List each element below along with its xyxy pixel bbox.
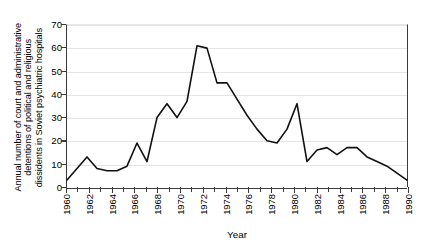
- x-tick-label-wrap-1976: 1976: [243, 194, 254, 219]
- x-axis-tick-marks: [66, 187, 408, 194]
- x-tick-label-1974: 1974: [220, 194, 231, 215]
- x-tick-label-wrap-1978: 1978: [266, 194, 277, 219]
- y-axis-title-line-2: detentions of political and religious: [24, 39, 33, 176]
- x-tick-label-wrap-1968: 1968: [152, 194, 163, 219]
- y-tick-mark-70: [61, 24, 66, 25]
- x-tick-label-wrap-1960: 1960: [61, 194, 72, 219]
- x-tick-mark-1974: [226, 187, 227, 193]
- x-tick-label-wrap-1984: 1984: [334, 194, 345, 219]
- x-tick-label-1986: 1986: [357, 194, 368, 215]
- x-tick-label-1988: 1988: [380, 194, 391, 215]
- x-tick-mark-1984: [340, 187, 341, 193]
- x-tick-label-wrap-1974: 1974: [220, 194, 231, 219]
- x-tick-mark-1963: [100, 187, 101, 192]
- y-tick-mark-60: [61, 47, 66, 48]
- x-tick-mark-1975: [237, 187, 238, 192]
- x-tick-mark-1979: [283, 187, 284, 192]
- x-tick-mark-1989: [397, 187, 398, 192]
- x-tick-mark-1967: [146, 187, 147, 192]
- x-tick-mark-1985: [351, 187, 352, 192]
- x-tick-mark-1965: [123, 187, 124, 192]
- y-tick-mark-10: [61, 164, 66, 165]
- x-tick-mark-1988: [385, 187, 386, 193]
- x-axis-title: Year: [66, 229, 408, 240]
- x-tick-label-1968: 1968: [152, 194, 163, 215]
- chart-figure: Annual number of court and administrativ…: [0, 0, 423, 249]
- x-tick-mark-1969: [169, 187, 170, 192]
- x-tick-label-1972: 1972: [197, 194, 208, 215]
- x-tick-label-wrap-1988: 1988: [380, 194, 391, 219]
- y-tick-mark-40: [61, 94, 66, 95]
- x-tick-label-1984: 1984: [334, 194, 345, 215]
- x-tick-label-1960: 1960: [61, 194, 72, 215]
- x-tick-mark-1962: [89, 187, 90, 193]
- x-tick-label-1966: 1966: [129, 194, 140, 215]
- x-tick-mark-1977: [260, 187, 261, 192]
- x-tick-mark-1982: [317, 187, 318, 193]
- data-series-line: [67, 25, 407, 187]
- x-tick-label-wrap-1964: 1964: [106, 194, 117, 219]
- x-tick-label-1962: 1962: [83, 194, 94, 215]
- y-axis-tick-labels: 010203040506070: [38, 0, 62, 249]
- x-tick-label-1978: 1978: [266, 194, 277, 215]
- x-tick-mark-1960: [66, 187, 67, 193]
- y-axis-title-line-1: Annual number of court and administrativ…: [14, 23, 23, 192]
- x-tick-mark-1964: [112, 187, 113, 193]
- x-tick-mark-1961: [77, 187, 78, 192]
- y-tick-mark-0: [61, 187, 66, 188]
- plot-area: [66, 24, 408, 187]
- x-tick-label-wrap-1982: 1982: [311, 194, 322, 219]
- y-tick-mark-20: [61, 140, 66, 141]
- x-tick-mark-1966: [134, 187, 135, 193]
- x-tick-label-wrap-1980: 1980: [289, 194, 300, 219]
- x-tick-label-wrap-1990: 1990: [403, 194, 414, 219]
- x-tick-mark-1978: [271, 187, 272, 193]
- x-tick-label-1980: 1980: [289, 194, 300, 215]
- x-tick-label-1990: 1990: [403, 194, 414, 215]
- x-tick-label-wrap-1972: 1972: [197, 194, 208, 219]
- x-tick-mark-1972: [203, 187, 204, 193]
- x-tick-label-1964: 1964: [106, 194, 117, 215]
- x-tick-mark-1970: [180, 187, 181, 193]
- x-tick-mark-1983: [328, 187, 329, 192]
- x-tick-mark-1981: [305, 187, 306, 192]
- x-tick-label-1982: 1982: [311, 194, 322, 215]
- x-tick-label-wrap-1966: 1966: [129, 194, 140, 219]
- x-tick-label-1970: 1970: [175, 194, 186, 215]
- x-tick-label-wrap-1962: 1962: [83, 194, 94, 219]
- x-tick-mark-1986: [362, 187, 363, 193]
- x-tick-mark-1976: [248, 187, 249, 193]
- series-polyline-detentions: [67, 46, 407, 180]
- x-axis-tick-labels: 1960196219641966196819701972197419761978…: [66, 194, 408, 226]
- x-tick-label-1976: 1976: [243, 194, 254, 215]
- x-tick-mark-1973: [214, 187, 215, 192]
- x-tick-mark-1990: [408, 187, 409, 193]
- x-tick-label-wrap-1970: 1970: [175, 194, 186, 219]
- x-tick-mark-1968: [157, 187, 158, 193]
- y-tick-mark-50: [61, 71, 66, 72]
- x-tick-label-wrap-1986: 1986: [357, 194, 368, 219]
- y-tick-mark-30: [61, 117, 66, 118]
- x-tick-mark-1971: [191, 187, 192, 192]
- x-tick-mark-1987: [374, 187, 375, 192]
- x-tick-mark-1980: [294, 187, 295, 193]
